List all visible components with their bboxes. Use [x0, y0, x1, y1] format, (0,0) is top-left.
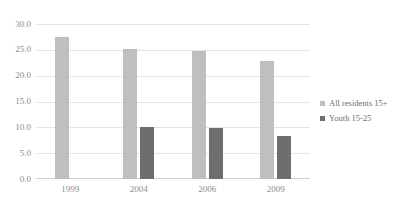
bar	[192, 51, 206, 179]
bar	[123, 49, 137, 179]
chart-legend: All residents 15+Youth 15-25	[320, 98, 400, 128]
bar	[260, 61, 274, 179]
x-axis-tick-label: 1999	[36, 184, 105, 194]
bar-chart: 30.025.020.015.010.05.00.0 1999200420062…	[0, 0, 401, 208]
y-axis-tick-label: 30.0	[15, 20, 31, 29]
plot-area	[36, 24, 310, 179]
x-axis-tick-label: 2004	[105, 184, 174, 194]
bar-group	[173, 24, 242, 179]
y-axis-tick-label: 25.0	[15, 45, 31, 54]
y-axis-tick-label: 5.0	[20, 149, 31, 158]
y-axis-labels: 30.025.020.015.010.05.00.0	[0, 0, 34, 208]
y-axis-tick-label: 20.0	[15, 71, 31, 80]
x-axis-labels: 1999200420062009	[36, 184, 310, 200]
bar-group	[242, 24, 311, 179]
legend-item[interactable]: All residents 15+	[320, 98, 400, 108]
legend-swatch-icon	[320, 116, 325, 121]
bar-group	[105, 24, 174, 179]
legend-swatch-icon	[320, 101, 325, 106]
legend-label: Youth 15-25	[329, 113, 371, 123]
x-axis-tick-label: 2006	[173, 184, 242, 194]
bar	[277, 136, 291, 179]
y-axis-tick-label: 0.0	[20, 175, 31, 184]
legend-item[interactable]: Youth 15-25	[320, 113, 400, 123]
legend-label: All residents 15+	[329, 98, 388, 108]
bar-group	[36, 24, 105, 179]
bar	[55, 37, 69, 179]
bar	[209, 128, 223, 179]
x-axis-tick-label: 2009	[242, 184, 311, 194]
bar	[140, 127, 154, 179]
y-axis-tick-label: 10.0	[15, 123, 31, 132]
y-axis-tick-label: 15.0	[15, 97, 31, 106]
